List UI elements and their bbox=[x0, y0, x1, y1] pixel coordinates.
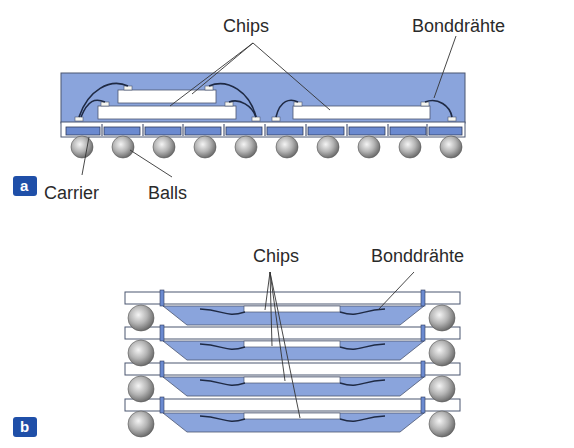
chip-top-left bbox=[118, 90, 216, 103]
chip-bottom-left bbox=[98, 106, 236, 119]
label-carrier: Carrier bbox=[44, 183, 99, 203]
badge-b-label: b bbox=[20, 418, 29, 435]
label-chips-a: Chips bbox=[223, 16, 269, 36]
label-balls: Balls bbox=[148, 183, 187, 203]
label-bonddraehte-b: Bonddrähte bbox=[371, 246, 464, 266]
label-chips-b: Chips bbox=[253, 246, 299, 266]
chip-right bbox=[293, 106, 430, 119]
solder-balls-a bbox=[71, 136, 462, 158]
label-bonddraehte-a: Bonddrähte bbox=[412, 16, 505, 36]
badge-a-label: a bbox=[20, 177, 29, 194]
chip-package-diagram: Chips Bonddrähte Carrier Balls a bbox=[0, 0, 574, 448]
stack-level-3 bbox=[125, 361, 460, 396]
figure-a: Chips Bonddrähte Carrier Balls a bbox=[13, 16, 505, 203]
stack-level-1 bbox=[125, 290, 460, 325]
figure-b: Chips Bonddrähte b bbox=[13, 246, 464, 437]
stack-level-2 bbox=[125, 325, 460, 360]
stack-level-4 bbox=[125, 397, 460, 432]
